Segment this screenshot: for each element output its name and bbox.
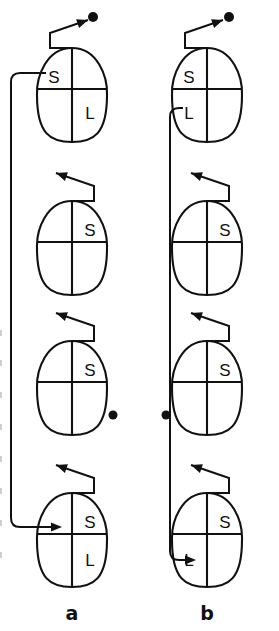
stage-a1-label-l: L	[85, 104, 94, 123]
stage-b1-label-l: L	[184, 104, 193, 123]
stage-a3-marker-dot	[109, 411, 118, 420]
connector-b-line	[170, 108, 187, 560]
stage-a2-label-s: S	[84, 221, 95, 240]
stage-b3: S	[162, 312, 243, 435]
stage-b4-pointer-arrow-icon	[191, 464, 203, 473]
stage-a1: SL	[37, 12, 107, 142]
connector-a-arrow-icon	[51, 522, 62, 531]
column-a: SLSSSL	[11, 12, 118, 587]
stage-b1-pointer-arrow-icon	[211, 19, 223, 28]
stage-a3-pointer-arrow-icon	[56, 312, 68, 321]
stage-a2: S	[37, 172, 107, 295]
diagram-canvas: SLSSSLSLSSSL a b	[0, 0, 279, 631]
connector-a	[11, 73, 62, 532]
stage-b2-pointer	[191, 172, 229, 201]
stage-a4-pointer-arrow-icon	[56, 464, 68, 473]
panel-label-b: b	[200, 602, 214, 624]
stage-b3-pointer	[191, 312, 229, 341]
stage-b4: SL	[172, 464, 242, 587]
stage-a4-label-s: S	[84, 513, 95, 532]
stage-a1-label-s: S	[48, 68, 59, 87]
stage-b1-label-s: S	[183, 68, 194, 87]
stage-a3: S	[37, 312, 118, 435]
stage-a1-pointer	[50, 19, 88, 48]
stage-b3-pointer-arrow-icon	[191, 312, 203, 321]
stage-b4-label-s: S	[219, 513, 230, 532]
figure-root: SLSSSLSLSSSL a b	[0, 0, 279, 631]
panel-label-a: a	[66, 602, 79, 624]
stage-a4-pointer	[56, 464, 94, 493]
stage-b2-label-s: S	[219, 221, 230, 240]
stage-a4-label-l: L	[85, 551, 94, 570]
stage-a2-pointer-arrow-icon	[56, 172, 68, 181]
stage-a1-pointer-arrow-icon	[76, 19, 88, 28]
diagram-content: SLSSSLSLSSSL	[11, 12, 242, 587]
stage-b3-label-s: S	[219, 361, 230, 380]
stage-a3-label-s: S	[84, 361, 95, 380]
stage-b1-marker-dot	[224, 12, 234, 22]
stage-a2-pointer	[56, 172, 94, 201]
connector-a-line	[11, 73, 53, 527]
stage-a1-marker-dot	[88, 12, 98, 22]
stage-a4: SL	[37, 464, 107, 587]
stage-b4-pointer	[191, 464, 229, 493]
stage-a3-pointer	[56, 312, 94, 341]
column-b: SLSSSL	[162, 12, 243, 587]
stage-b1-pointer	[185, 19, 223, 48]
stage-b1: SL	[172, 12, 242, 142]
stage-b2: S	[172, 172, 242, 295]
left-edge-artifacts	[0, 330, 2, 558]
stage-b2-pointer-arrow-icon	[191, 172, 203, 181]
